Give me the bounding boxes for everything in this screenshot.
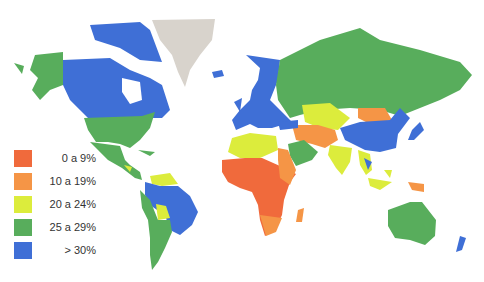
legend-label: 20 a 24% — [44, 198, 96, 210]
legend-swatch — [14, 196, 32, 213]
legend-swatch — [14, 242, 32, 259]
region-russia — [276, 28, 472, 118]
legend-label: 10 a 19% — [44, 175, 96, 187]
legend-label: > 30% — [44, 244, 96, 256]
world-map — [0, 0, 484, 282]
legend-label: 0 a 9% — [44, 152, 96, 164]
legend-swatch — [14, 150, 32, 167]
region-japan — [408, 122, 424, 140]
region-alaska — [30, 52, 63, 100]
legend-swatch — [14, 173, 32, 190]
region-venezuela — [150, 173, 178, 186]
legend-label: 25 a 29% — [44, 221, 96, 233]
region-north-africa — [228, 133, 278, 158]
region-new-zealand — [456, 236, 466, 252]
legend-item-10-19: 10 a 19% — [14, 173, 134, 193]
region-australia — [388, 202, 436, 245]
region-greenland — [152, 19, 215, 87]
legend-item-20-24: 20 a 24% — [14, 196, 134, 216]
legend-item-25-29: 25 a 29% — [14, 219, 134, 239]
region-madagascar — [296, 208, 304, 222]
legend-item-over-30: > 30% — [14, 242, 134, 262]
region-png — [408, 182, 424, 192]
legend-swatch — [14, 219, 32, 236]
region-india — [328, 145, 352, 175]
region-canada — [63, 58, 170, 118]
legend-item-0-9: 0 a 9% — [14, 150, 134, 170]
